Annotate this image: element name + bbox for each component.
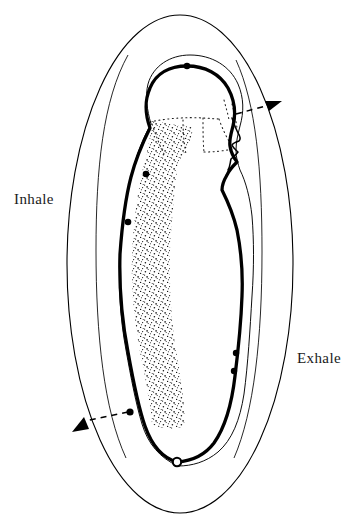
inner-guide-arc-right — [234, 60, 262, 458]
marker-dot-front-torso-lower — [231, 368, 237, 374]
outer-breath-ellipse — [67, 15, 293, 513]
body-thick-front-line — [177, 66, 242, 462]
inhale-direction-arrow — [72, 412, 128, 432]
marker-dot-base-of-skull — [143, 171, 150, 178]
inner-guide-arc-left — [96, 55, 128, 458]
inhale-label: Inhale — [14, 191, 54, 208]
exhale-label: Exhale — [297, 350, 341, 367]
marker-dot-upper-back — [125, 219, 132, 226]
breath-cycle-figure — [0, 0, 357, 532]
marker-dot-front-torso-upper — [233, 350, 239, 356]
marker-dot-crown-of-head — [184, 63, 191, 70]
figure-ink — [67, 15, 293, 513]
diagram-canvas: Inhale Exhale — [0, 0, 357, 532]
marker-dot-lower-back — [126, 408, 133, 415]
start-point-open-circle — [173, 458, 181, 466]
